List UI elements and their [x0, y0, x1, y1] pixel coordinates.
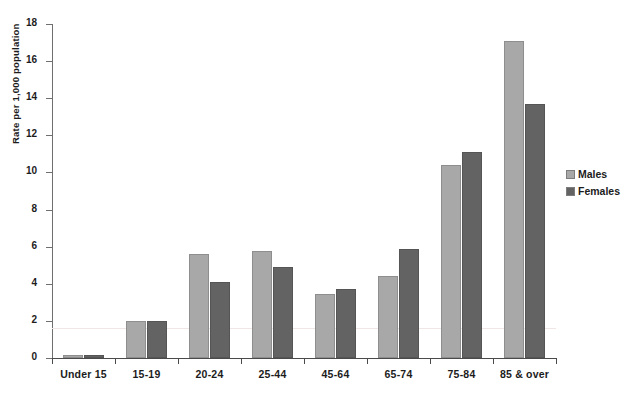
legend-label-females: Females	[578, 185, 620, 197]
legend-item-females: Females	[566, 185, 620, 197]
bar-females	[462, 152, 482, 358]
x-axis-category-label: 20-24	[196, 368, 224, 380]
bar-males	[63, 355, 83, 358]
y-axis-line	[52, 24, 53, 358]
y-axis-tick: 14	[46, 98, 53, 99]
x-axis-tick	[430, 358, 431, 364]
x-axis-category-label: 25-44	[259, 368, 287, 380]
y-axis-tick: 10	[46, 172, 53, 173]
legend-label-males: Males	[578, 168, 607, 180]
bar-females	[210, 282, 230, 358]
x-axis-tick	[115, 358, 116, 364]
legend-swatch-females-icon	[566, 187, 575, 196]
y-axis-title: Rate per 1,000 population	[10, 0, 21, 144]
y-axis-tick-label: 2	[31, 314, 37, 325]
y-axis-tick: 8	[46, 210, 53, 211]
bar-males	[504, 41, 524, 358]
plot-area: 024681012141618	[52, 24, 556, 358]
x-axis-tick	[556, 358, 557, 364]
y-axis-tick: 18	[46, 24, 53, 25]
x-axis-category-label: 65-74	[385, 368, 413, 380]
x-axis-category-label: 15-19	[133, 368, 161, 380]
y-axis-tick-label: 6	[31, 240, 37, 251]
y-axis-tick-label: 16	[26, 54, 37, 65]
y-axis-tick: 2	[46, 321, 53, 322]
x-axis-category-label: 75-84	[448, 368, 476, 380]
y-axis-tick: 4	[46, 284, 53, 285]
bar-females	[147, 321, 167, 358]
y-axis-tick-label: 14	[26, 91, 37, 102]
bar-females	[399, 249, 419, 358]
bar-females	[273, 267, 293, 358]
y-axis-tick-label: 12	[26, 128, 37, 139]
bar-males	[126, 321, 146, 358]
x-axis-category-label: 85 & over	[500, 368, 549, 380]
x-axis-category-label: Under 15	[60, 368, 107, 380]
y-axis-tick-label: 10	[26, 165, 37, 176]
y-axis-tick-label: 18	[26, 17, 37, 28]
x-axis-tick	[178, 358, 179, 364]
legend-swatch-males-icon	[566, 170, 575, 179]
bar-males	[252, 251, 272, 358]
y-axis-tick-label: 4	[31, 277, 37, 288]
bar-males	[378, 276, 398, 358]
bar-males	[441, 165, 461, 358]
x-axis-category-label: 45-64	[322, 368, 350, 380]
bar-females	[336, 289, 356, 358]
legend-item-males: Males	[566, 168, 620, 180]
bar-males	[189, 254, 209, 358]
legend: Males Females	[566, 168, 620, 202]
bar-males	[315, 294, 335, 358]
x-axis-tick	[52, 358, 53, 364]
y-axis-tick: 16	[46, 61, 53, 62]
x-axis-tick	[493, 358, 494, 364]
y-axis-tick-label: 0	[31, 351, 37, 362]
y-axis-tick-label: 8	[31, 203, 37, 214]
y-axis-tick: 6	[46, 247, 53, 248]
y-axis-tick: 12	[46, 135, 53, 136]
bar-females	[525, 104, 545, 358]
bar-chart: Rate per 1,000 population 02468101214161…	[0, 0, 634, 399]
x-axis-tick	[304, 358, 305, 364]
x-axis-tick	[241, 358, 242, 364]
x-axis-tick	[367, 358, 368, 364]
bar-females	[84, 355, 104, 358]
